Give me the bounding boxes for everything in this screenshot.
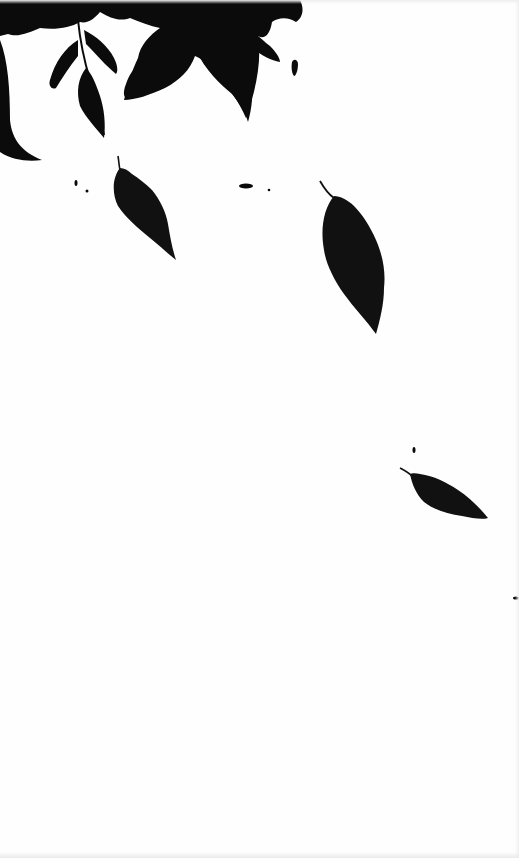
speck bbox=[75, 180, 78, 186]
frame-edge-top bbox=[0, 0, 519, 4]
debris-specks bbox=[75, 180, 519, 600]
falling-leaf-2 bbox=[320, 181, 385, 334]
speck bbox=[239, 184, 253, 189]
frame-edge-right bbox=[515, 0, 519, 858]
speck bbox=[268, 189, 271, 192]
frame-edge-bottom bbox=[0, 852, 519, 858]
speck bbox=[86, 190, 89, 193]
falling-leaves bbox=[0, 0, 519, 858]
falling-leaf-1 bbox=[114, 156, 176, 260]
falling-leaf-3 bbox=[400, 468, 488, 519]
illustration-canvas bbox=[0, 0, 519, 858]
speck bbox=[413, 447, 416, 453]
